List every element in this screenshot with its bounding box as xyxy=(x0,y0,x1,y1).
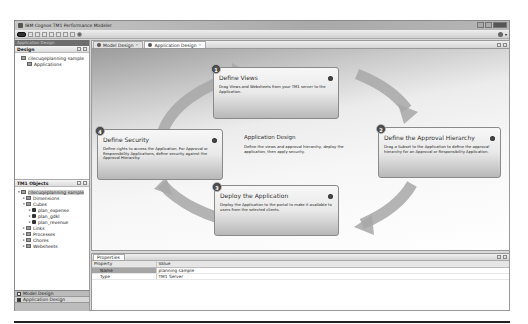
properties-table: Property Value Name planning sample Type… xyxy=(92,261,509,280)
design-view-title: Design xyxy=(15,46,89,53)
step-card-define-approval-hierarchy[interactable]: 2 Define the Approval Hierarchy Drag a S… xyxy=(378,127,501,178)
folder-icon xyxy=(26,238,31,242)
editor-tabs: Model Design × Application Design × xyxy=(92,41,509,49)
cube-icon xyxy=(32,214,36,218)
maximize-view-button[interactable] xyxy=(503,255,507,259)
tab-model-design[interactable]: Model Design × xyxy=(93,41,143,48)
cube-icon xyxy=(32,208,36,212)
tm1-objects-view: TM1 Objects ▾ cilecuqeplanning sample ▸ … xyxy=(15,180,89,290)
left-panel: Application Design Design cilecuqeplanni… xyxy=(15,40,90,311)
folder-icon xyxy=(26,196,31,200)
title-bar: IBM Cognos TM1 Performance Modeler xyxy=(15,21,509,30)
divider xyxy=(14,321,510,323)
maximize-editor-button[interactable] xyxy=(503,43,507,47)
perspective-application-design[interactable]: Application Design xyxy=(15,297,89,303)
redo-button[interactable] xyxy=(42,32,47,37)
table-row[interactable]: Type TM1 Server xyxy=(92,273,509,279)
tree-item-server[interactable]: ▾ cilecuqeplanning sample xyxy=(17,189,89,195)
check-button[interactable] xyxy=(70,32,75,37)
refresh-button[interactable] xyxy=(63,32,68,37)
window-title: IBM Cognos TM1 Performance Modeler xyxy=(25,23,112,28)
window-controls xyxy=(477,22,507,28)
gear-icon xyxy=(97,43,101,47)
step-number-badge: 2 xyxy=(376,124,386,134)
folder-icon xyxy=(26,202,31,206)
gear-icon[interactable] xyxy=(212,138,217,143)
tree-item-websheets[interactable]: ▸ Websheets xyxy=(17,243,89,249)
summary-description: Define the views and approval hierarchy,… xyxy=(244,145,366,154)
summary-title: Application Design xyxy=(244,134,366,140)
save-button[interactable] xyxy=(28,32,33,37)
new-button[interactable] xyxy=(49,32,54,37)
help-dropdown-chevron-icon[interactable]: ▾ xyxy=(505,32,507,37)
tree-item-server[interactable]: cilecuqeplanning sample xyxy=(17,55,89,61)
main-toolbar: ▾ xyxy=(15,30,509,39)
properties-tabs: Properties xyxy=(92,254,509,261)
tm1-objects-view-title: TM1 Objects xyxy=(15,180,89,187)
application-design-summary: Application Design Define the views and … xyxy=(244,134,366,154)
close-button[interactable] xyxy=(493,22,507,28)
cube-icon xyxy=(32,220,36,224)
step-number-badge: 3 xyxy=(212,182,222,192)
close-tab-icon[interactable]: × xyxy=(199,43,202,47)
minimize-view-button[interactable] xyxy=(497,255,501,259)
tree-item-applications[interactable]: Applications xyxy=(17,61,89,67)
home-button[interactable] xyxy=(17,32,26,37)
gear-icon xyxy=(148,43,152,47)
server-icon xyxy=(21,190,26,194)
editor-area: Model Design × Application Design × xyxy=(91,40,510,251)
step-card-define-security[interactable]: 4 Define Security Define rights to acces… xyxy=(97,129,223,180)
application-design-icon xyxy=(17,298,21,302)
maximize-view-button[interactable] xyxy=(83,181,87,185)
minimize-view-button[interactable] xyxy=(77,47,81,51)
minimize-editor-button[interactable] xyxy=(497,43,501,47)
close-tab-icon[interactable]: × xyxy=(135,43,138,47)
open-button[interactable] xyxy=(56,32,61,37)
help-icon[interactable] xyxy=(498,32,503,37)
application-design-canvas: 1 Define Views Drag Views and Websheets … xyxy=(92,49,509,250)
maximize-view-button[interactable] xyxy=(83,47,87,51)
minimize-view-button[interactable] xyxy=(77,181,81,185)
folder-icon xyxy=(26,226,31,230)
settings-gear-icon[interactable] xyxy=(77,32,82,37)
folder-icon xyxy=(21,56,26,60)
gear-icon[interactable] xyxy=(490,136,495,141)
minimize-button[interactable] xyxy=(477,22,484,28)
step-card-define-views[interactable]: 1 Define Views Drag Views and Websheets … xyxy=(213,67,339,119)
tm1-objects-tree: ▾ cilecuqeplanning sample ▸ Dimensions ▾… xyxy=(15,187,89,249)
tab-application-design[interactable]: Application Design × xyxy=(144,41,206,48)
step-number-badge: 1 xyxy=(211,64,221,74)
step-card-deploy-application[interactable]: 3 Deploy the Application Deploy the Appl… xyxy=(214,185,339,236)
folder-icon xyxy=(27,62,32,66)
perspective-switcher: Model Design Application Design xyxy=(15,290,89,311)
tab-properties[interactable]: Properties xyxy=(93,254,125,260)
app-window: IBM Cognos TM1 Performance Modeler ▾ App… xyxy=(14,20,510,311)
step-number-badge: 4 xyxy=(95,126,105,136)
gear-icon[interactable] xyxy=(328,194,333,199)
design-tree: cilecuqeplanning sample Applications xyxy=(15,53,89,67)
gear-icon[interactable] xyxy=(328,76,333,81)
model-design-icon xyxy=(17,292,21,296)
properties-view: Properties Property Value Name planning … xyxy=(91,253,510,311)
folder-icon xyxy=(26,232,31,236)
undo-button[interactable] xyxy=(35,32,40,37)
design-view: Design cilecuqeplanning sample Applicati… xyxy=(15,46,89,180)
app-logo-icon xyxy=(18,23,23,28)
folder-icon xyxy=(26,244,31,248)
maximize-button[interactable] xyxy=(485,22,492,28)
